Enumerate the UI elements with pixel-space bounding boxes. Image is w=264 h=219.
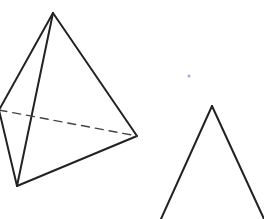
geometry-diagram <box>0 0 264 219</box>
hidden-edge-left-right <box>0 110 137 136</box>
cone-left-edge <box>161 106 212 219</box>
cone-outline <box>161 106 264 219</box>
edge-left-bottom <box>0 110 17 186</box>
tetrahedron <box>0 13 137 186</box>
edge-apex-bottom <box>17 13 53 186</box>
edge-apex-right <box>53 13 137 136</box>
cone-right-edge <box>212 106 264 219</box>
edge-bottom-right <box>17 136 137 186</box>
stray-dot <box>188 75 191 78</box>
edge-apex-left <box>0 13 53 110</box>
